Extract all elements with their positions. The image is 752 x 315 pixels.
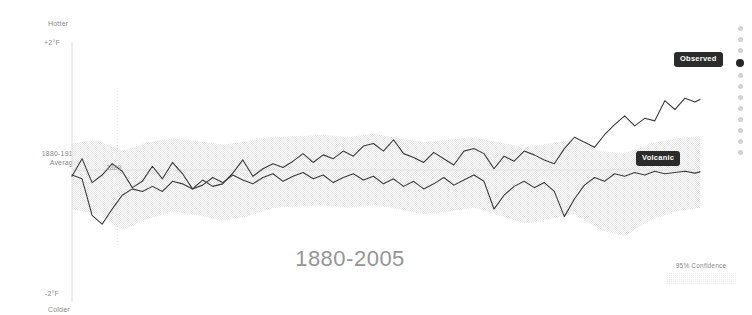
nav-dot-12[interactable] (738, 150, 743, 155)
nav-dot-9[interactable] (738, 117, 743, 122)
nav-dot-3[interactable] (738, 48, 743, 53)
nav-dot-5[interactable] (738, 73, 743, 78)
slide-dot-navigation[interactable] (736, 26, 744, 155)
nav-dot-4[interactable] (736, 59, 744, 67)
nav-dot-11[interactable] (738, 139, 743, 144)
confidence-legend-swatch (666, 272, 736, 285)
series-label-volcanic: Volcanic (636, 151, 680, 166)
confidence-legend-label: 95% Confidence (666, 262, 736, 269)
nav-dot-7[interactable] (738, 95, 743, 100)
nav-dot-2[interactable] (738, 37, 743, 42)
chart-title: 1880-2005 (0, 246, 700, 272)
year-annotation-1889: 1889 (106, 164, 121, 171)
nav-dot-6[interactable] (738, 84, 743, 89)
confidence-legend: 95% Confidence (666, 262, 736, 285)
nav-dot-1[interactable] (738, 26, 743, 31)
nav-dot-10[interactable] (738, 128, 743, 133)
series-label-observed: Observed (674, 52, 723, 67)
nav-dot-8[interactable] (738, 106, 743, 111)
climate-chart-slide: Hotter +2°F 1880-1910 Average -2°F Colde… (0, 0, 752, 315)
